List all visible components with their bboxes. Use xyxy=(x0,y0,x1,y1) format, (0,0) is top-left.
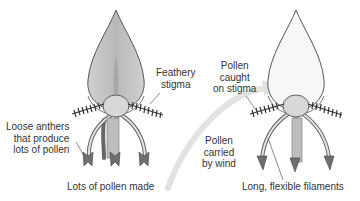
wind-pollination-diagram: Feathery stigma Loose anthers that produ… xyxy=(0,0,360,201)
left-ovary xyxy=(103,95,129,117)
right-flower xyxy=(246,10,342,180)
label-pollen-caught: Pollen caught on stigma xyxy=(213,60,256,95)
label-pollen-carried: Pollen carried by wind xyxy=(202,135,236,170)
label-loose-anthers: Loose anthers that produce lots of polle… xyxy=(6,121,69,156)
label-pollen-made: Lots of pollen made xyxy=(67,181,154,193)
right-style xyxy=(292,118,302,162)
caught-pointer-line xyxy=(246,96,256,110)
label-filaments: Long, flexible filaments xyxy=(242,181,344,193)
wind-arrow xyxy=(168,80,280,188)
left-flower xyxy=(72,10,163,166)
filament-pointer-line xyxy=(268,138,283,180)
stigma-pointer-line xyxy=(150,93,160,104)
anther-pointer-line xyxy=(76,142,84,156)
label-feathery-stigma: Feathery stigma xyxy=(156,67,195,90)
left-style xyxy=(107,118,119,158)
right-ovary xyxy=(283,95,309,117)
diagram-graphics xyxy=(0,0,360,201)
right-anthers xyxy=(257,156,334,172)
